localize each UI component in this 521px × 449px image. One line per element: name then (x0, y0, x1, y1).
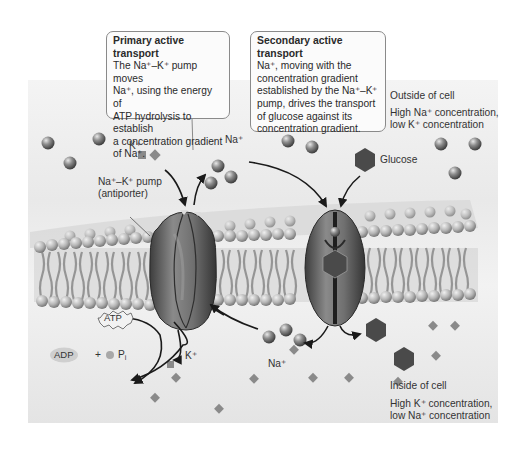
sodium-label-top: Na⁺ (225, 134, 243, 146)
secondary-active-transport-callout: Secondary active transport Na⁺, moving w… (250, 31, 386, 132)
secondary-callout-line: of glucose against its (257, 111, 379, 124)
sodium-glucose-symporter-protein (305, 210, 365, 326)
secondary-callout-line: established by the Na⁺–K⁺ (257, 85, 379, 98)
potassium-label-top: K⁺ (129, 140, 141, 152)
glucose-outside (355, 148, 375, 172)
phosphate-subscript: i (125, 354, 127, 361)
potassium-label-bottom: K⁺ (185, 350, 197, 362)
sodium-ions-inside (263, 324, 307, 347)
inside-concentration-line1: High K⁺ concentration, (390, 398, 492, 410)
phosphate-label: Pi (118, 349, 126, 361)
glucose-label: Glucose (380, 154, 417, 166)
outside-concentration-line2: low K⁺ concentration (390, 119, 484, 131)
primary-callout-title: Primary active transport (113, 35, 223, 60)
primary-callout-line: Na⁺, using the energy of (113, 85, 223, 110)
inside-of-cell-label: Inside of cell (390, 380, 447, 392)
secondary-callout-line: concentration gradient. (257, 123, 379, 136)
primary-callout-line: The Na⁺–K⁺ pump moves (113, 60, 223, 85)
phosphate-dot (106, 351, 114, 359)
sodium-potassium-pump-protein (150, 210, 217, 330)
atp-label: ATP (104, 312, 122, 324)
outside-concentration-line1: High Na⁺ concentration, (390, 107, 499, 119)
secondary-callout-title: Secondary active transport (257, 35, 379, 60)
secondary-callout-line: Na⁺, moving with the (257, 60, 379, 73)
pump-label-line2: (antiporter) (98, 188, 148, 200)
pump-label-line1: Na⁺–K⁺ pump (98, 176, 162, 188)
adp-label: ADP (54, 349, 74, 361)
lipid-bilayer (30, 200, 478, 311)
outside-of-cell-label: Outside of cell (390, 90, 455, 102)
sodium-label-bottom: Na⁺ (268, 358, 286, 370)
inside-concentration-line2: low Na⁺ concentration (390, 410, 490, 422)
primary-callout-line: ATP hydrolysis to establish (113, 111, 223, 136)
primary-active-transport-callout: Primary active transport The Na⁺–K⁺ pump… (106, 31, 230, 119)
plus-sign: + (95, 349, 101, 361)
secondary-callout-line: concentration gradient (257, 73, 379, 86)
phosphate-p: P (118, 349, 125, 360)
secondary-callout-line: pump, drives the transport (257, 98, 379, 111)
